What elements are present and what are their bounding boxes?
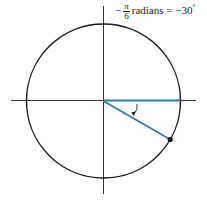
degree-symbol: ° xyxy=(192,3,195,11)
minus-sign: − xyxy=(115,4,121,16)
fraction: π6 xyxy=(123,2,130,21)
label-text: radians = −30 xyxy=(132,4,193,16)
diagram-svg xyxy=(0,0,207,204)
fraction-denominator: 6 xyxy=(124,12,129,21)
angle-label: −π6radians = −30° xyxy=(115,2,195,21)
unit-circle-diagram: −π6radians = −30° xyxy=(0,0,207,204)
terminal-point xyxy=(168,137,173,142)
